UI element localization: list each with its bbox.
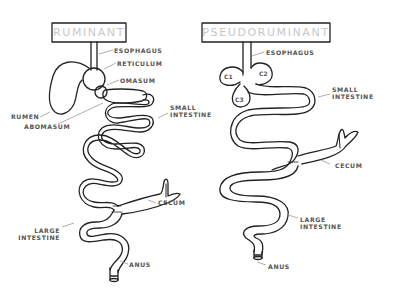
label-esophagus: ESOPHAGUS	[114, 47, 162, 54]
digestive-system-comparison: RUMINANT PSEUDORUMINANT ESOPHAGUS RETICU…	[0, 0, 394, 288]
label-reticulum: RETICULUM	[117, 60, 162, 67]
label-large-intestine-line1: LARGE	[16, 227, 60, 234]
label-large-intestine-pseudo-line1: LARGE	[300, 216, 342, 223]
ruminant-cecum	[118, 179, 180, 214]
label-omasum: OMASUM	[120, 77, 155, 84]
label-large-intestine: LARGE INTESTINE	[16, 227, 60, 242]
label-esophagus-pseudo: ESOPHAGUS	[266, 49, 314, 56]
label-large-intestine-pseudo: LARGE INTESTINE	[300, 216, 342, 231]
label-large-intestine-pseudo-line2: INTESTINE	[300, 223, 342, 230]
label-large-intestine-line2: INTESTINE	[16, 234, 60, 241]
ruminant-esophagus	[91, 42, 97, 70]
label-cecum-pseudo: CECUM	[335, 162, 363, 169]
label-anus-pseudo: ANUS	[268, 263, 290, 270]
pseudoruminant-esophagus	[243, 42, 251, 75]
abomasum	[103, 89, 147, 103]
label-c1: C1	[224, 73, 233, 80]
label-cecum: CECUM	[158, 199, 186, 206]
label-c3: C3	[235, 96, 244, 103]
pseudoruminant-title: PSEUDORUMINANT	[202, 26, 330, 39]
rumen	[49, 62, 89, 114]
label-small-intestine: SMALL INTESTINE	[170, 104, 212, 119]
label-small-intestine-pseudo: SMALL INTESTINE	[332, 86, 374, 101]
label-small-intestine-pseudo-line1: SMALL	[332, 86, 374, 93]
reticulum	[83, 68, 105, 90]
ruminant-anus	[110, 279, 118, 282]
label-abomasum: ABOMASUM	[24, 123, 70, 130]
label-rumen: RUMEN	[11, 113, 39, 120]
label-small-intestine-line1: SMALL	[170, 104, 212, 111]
diagram-artwork	[0, 0, 394, 288]
label-small-intestine-pseudo-line2: INTESTINE	[332, 93, 374, 100]
pseudoruminant-large-intestine	[220, 162, 298, 254]
pseudoruminant-anus	[254, 257, 262, 260]
label-anus: ANUS	[129, 261, 151, 268]
pseudoruminant-cecum	[298, 129, 358, 164]
label-c2: C2	[259, 70, 268, 77]
ruminant-title: RUMINANT	[52, 26, 126, 39]
ruminant-large-intestine	[80, 210, 129, 272]
label-small-intestine-line2: INTESTINE	[170, 111, 212, 118]
ruminant-small-intestine	[79, 94, 153, 210]
